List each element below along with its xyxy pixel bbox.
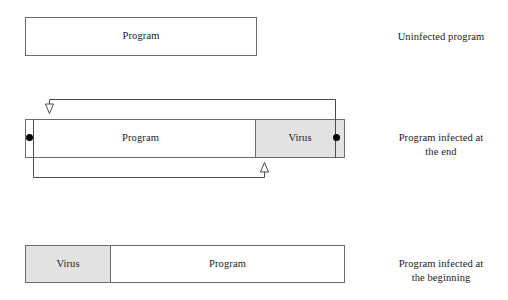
entry-point-marker — [26, 134, 33, 141]
arrowhead-down-icon — [46, 104, 54, 114]
caption-infected-at-beginning: Program infected at the beginning — [378, 257, 504, 285]
uninfected-program-segment: Program — [25, 17, 257, 56]
diagram-canvas: Program Uninfected program Program Virus… — [0, 0, 508, 300]
segment-label-virus: Virus — [288, 133, 311, 144]
infected-beginning-program-segment: Program — [111, 246, 344, 282]
caption-uninfected-program: Uninfected program — [378, 30, 504, 44]
caption-line: Uninfected program — [398, 31, 485, 42]
entry-point-rule — [33, 119, 34, 158]
caption-line-2: the beginning — [412, 272, 471, 283]
return-to-program-arrow — [34, 158, 269, 178]
caption-infected-at-end: Program infected at the end — [378, 131, 504, 159]
segment-label-program: Program — [123, 31, 160, 42]
segment-label-program: Program — [122, 133, 159, 144]
infected-end-virus-segment: Virus — [255, 120, 344, 157]
segment-label-virus: Virus — [56, 259, 79, 270]
caption-line-2: the end — [425, 146, 456, 157]
segment-label-program: Program — [209, 259, 246, 270]
infected-beginning-virus-segment: Virus — [26, 246, 111, 282]
jump-to-virus-arrow — [46, 100, 336, 120]
caption-line-1: Program infected at — [399, 132, 484, 143]
arrowhead-up-icon — [261, 163, 269, 173]
caption-line-1: Program infected at — [399, 258, 484, 269]
infected-end-program-segment: Program — [26, 120, 255, 157]
virus-return-marker — [333, 134, 340, 141]
